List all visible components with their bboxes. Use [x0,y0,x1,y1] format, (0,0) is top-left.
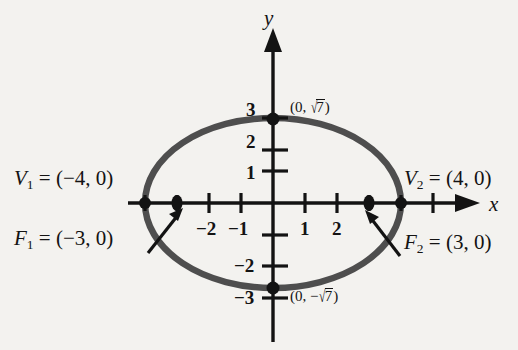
y-axis-label: y [264,8,273,29]
covertex-top-close: ) [325,99,330,115]
covertex-bottom-dot [267,282,280,295]
focus-right-label: F2 = (3, 0) [404,232,491,255]
vertex-right-coords: (4, 0) [446,166,492,190]
y-axis-arrowhead [264,28,282,52]
y-tick-label-1: 1 [246,163,256,182]
x-tick-label-2: 2 [332,219,342,238]
radical-sign-icon: √ [311,99,317,116]
focus-right-dot [364,195,375,211]
vertex-left-dot [139,197,151,209]
y-tick-label-2: 2 [246,132,256,151]
focus-left-subscript: 1 [27,237,34,252]
vertex-right-subscript: 2 [417,177,424,192]
vertex-left-symbol: V [14,166,27,190]
covertex-top-label: (0, √7) [290,99,330,116]
covertex-bottom-radicand: 7 [325,288,334,305]
covertex-top-radicand: 7 [316,99,325,116]
covertex-bottom-close: ) [333,288,338,304]
x-axis-arrowhead [455,194,480,212]
covertex-bottom-label: (0, −√7) [290,288,338,305]
focus-left-equals: = [39,226,51,250]
vertex-right-dot [395,197,407,209]
vertex-right-label: V2 = (4, 0) [404,168,491,191]
x-tick-label--2: −2 [196,219,216,238]
focus-right-arrowhead [365,210,379,224]
focus-left-symbol: F [14,226,27,250]
vertex-left-subscript: 1 [27,177,34,192]
y-tick-label-3: 3 [246,100,256,119]
vertex-right-equals: = [429,166,441,190]
x-axis-label: x [489,194,498,215]
x-tick-label-1: 1 [300,219,310,238]
x-tick-label--1: −1 [228,219,248,238]
vertex-left-label: V1 = (−4, 0) [14,168,113,191]
ellipse-figure: y x −2 −1 1 2 3 2 1 −2 −3 V1 = (−4, 0) V… [0,0,518,350]
focus-left-coords: (−3, 0) [56,226,113,250]
vertex-left-coords: (−4, 0) [56,166,113,190]
focus-right-equals: = [429,230,441,254]
vertex-left-equals: = [39,166,51,190]
focus-right-subscript: 2 [417,241,424,256]
covertex-top-dot [267,113,280,126]
covertex-bottom-open: (0, − [290,288,318,304]
y-tick-label--2: −2 [234,256,254,275]
vertex-right-symbol: V [404,166,417,190]
focus-right-symbol: F [404,230,417,254]
radical-sign-icon-bottom: √ [319,288,325,305]
focus-right-coords: (3, 0) [446,230,492,254]
y-axis-ticks [262,118,288,298]
focus-left-label: F1 = (−3, 0) [14,228,113,251]
covertex-top-open: (0, [290,99,310,115]
y-tick-label--3: −3 [234,288,254,307]
focus-left-dot [172,195,183,211]
